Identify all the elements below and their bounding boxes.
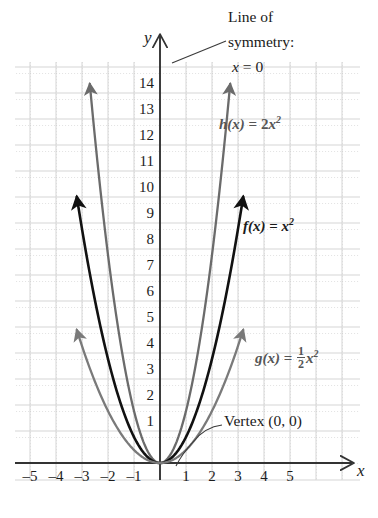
y-tick-11: 11 bbox=[118, 153, 154, 170]
x-tick-neg3: –3 bbox=[68, 468, 96, 485]
g-fn-exp: 2 bbox=[314, 348, 319, 359]
x-axis-label: x bbox=[357, 461, 365, 480]
symmetry-leader bbox=[172, 41, 226, 63]
symmetry-equation: x = 0 bbox=[232, 58, 263, 75]
y-tick-9: 9 bbox=[118, 205, 154, 222]
y-tick-3: 3 bbox=[118, 361, 154, 378]
h-fn-exp: 2 bbox=[276, 114, 281, 125]
x-tick-2: 2 bbox=[199, 468, 225, 485]
x-tick-neg4: –4 bbox=[42, 468, 70, 485]
y-tick-7: 7 bbox=[118, 257, 154, 274]
function-label-f: f(x) = x2 bbox=[243, 216, 294, 235]
y-tick-1: 1 bbox=[118, 413, 154, 430]
symmetry-label-line1: Line of bbox=[228, 8, 273, 25]
y-axis-label: y bbox=[144, 28, 152, 47]
function-label-h: h(x) = 2x2 bbox=[219, 114, 281, 133]
h-fn-var: x bbox=[268, 116, 276, 132]
g-fn-arg: (x) bbox=[263, 350, 281, 366]
y-tick-10: 10 bbox=[118, 179, 154, 196]
function-label-g: g(x) = 12x2 bbox=[255, 345, 319, 370]
g-fn-name: g bbox=[255, 350, 263, 366]
g-fn-fraction: 12 bbox=[297, 345, 305, 370]
x-tick-neg5: –5 bbox=[16, 468, 44, 485]
h-fn-arg: (x) bbox=[227, 116, 245, 132]
y-tick-14: 14 bbox=[118, 75, 154, 92]
y-tick-12: 12 bbox=[118, 127, 154, 144]
chart-canvas bbox=[0, 0, 378, 518]
parabola-family-figure: y x 14 13 12 11 10 9 8 7 6 5 4 3 2 1 –5 … bbox=[0, 0, 378, 518]
f-fn-arg: (x) bbox=[248, 218, 266, 234]
y-tick-2: 2 bbox=[118, 387, 154, 404]
symmetry-equation-rest: = 0 bbox=[239, 58, 263, 75]
g-fn-var: x bbox=[306, 350, 314, 366]
g-fn-numerator: 1 bbox=[297, 345, 305, 357]
symmetry-label-line2: symmetry: bbox=[228, 33, 294, 50]
y-tick-4: 4 bbox=[118, 335, 154, 352]
x-tick-3: 3 bbox=[225, 468, 251, 485]
y-tick-8: 8 bbox=[118, 231, 154, 248]
y-tick-13: 13 bbox=[118, 101, 154, 118]
x-tick-1: 1 bbox=[173, 468, 199, 485]
f-fn-var: x bbox=[282, 218, 290, 234]
g-fn-denominator: 2 bbox=[297, 357, 305, 370]
y-tick-5: 5 bbox=[118, 309, 154, 326]
g-fn-eq: = bbox=[280, 350, 296, 366]
x-tick-neg1: –1 bbox=[120, 468, 148, 485]
f-fn-eq: = bbox=[266, 218, 282, 234]
symmetry-equation-var: x bbox=[232, 58, 239, 75]
x-tick-5: 5 bbox=[277, 468, 303, 485]
vertex-label: Vertex (0, 0) bbox=[224, 412, 302, 429]
y-tick-6: 6 bbox=[118, 283, 154, 300]
f-fn-exp: 2 bbox=[289, 216, 294, 227]
x-tick-4: 4 bbox=[251, 468, 277, 485]
h-fn-eq: = 2 bbox=[245, 116, 269, 132]
x-tick-neg2: –2 bbox=[94, 468, 122, 485]
grid-minor bbox=[15, 62, 360, 480]
